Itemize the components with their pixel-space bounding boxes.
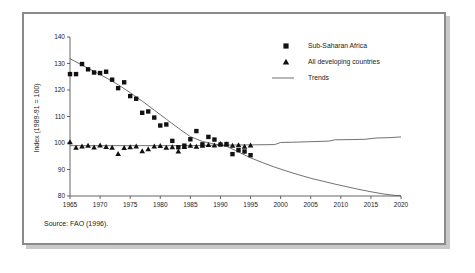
square-marker-icon bbox=[152, 115, 156, 119]
series-sub-saharan-africa bbox=[68, 62, 253, 158]
triangle-marker-icon bbox=[170, 144, 176, 149]
square-marker-icon bbox=[194, 129, 198, 133]
legend-label: Trends bbox=[308, 74, 330, 81]
chart-canvas: 1965197019751980198519901995200020052010… bbox=[0, 0, 475, 273]
triangle-marker-icon bbox=[145, 146, 151, 151]
square-marker-icon bbox=[146, 109, 150, 113]
square-marker-icon bbox=[92, 70, 96, 74]
y-axis-title: Index (1989-91 = 100) bbox=[33, 83, 41, 152]
square-marker-icon bbox=[80, 62, 84, 66]
square-marker-icon bbox=[74, 72, 78, 76]
triangle-marker-icon bbox=[67, 139, 73, 144]
y-tick-label: 110 bbox=[55, 113, 66, 120]
x-tick-label: 2005 bbox=[303, 201, 318, 208]
square-marker-icon bbox=[283, 43, 288, 48]
figure-root: 1965197019751980198519901995200020052010… bbox=[0, 0, 475, 273]
triangle-marker-icon bbox=[115, 151, 121, 156]
square-marker-icon bbox=[140, 111, 144, 115]
x-tick-label: 2010 bbox=[334, 201, 349, 208]
triangle-marker-icon bbox=[91, 144, 97, 149]
trend-lines bbox=[70, 59, 401, 196]
x-tick-label: 2015 bbox=[364, 201, 379, 208]
square-marker-icon bbox=[122, 80, 126, 84]
y-tick-label: 80 bbox=[58, 192, 66, 199]
x-tick-label: 1985 bbox=[183, 201, 198, 208]
triangle-marker-icon bbox=[97, 143, 103, 148]
square-marker-icon bbox=[206, 135, 210, 139]
legend-label: All developing countries bbox=[308, 58, 380, 66]
series-all-developing-countries bbox=[67, 139, 253, 156]
chart-legend: Sub-Saharan AfricaAll developing countri… bbox=[272, 42, 380, 81]
triangle-marker-icon bbox=[242, 144, 248, 149]
x-tick-label: 1965 bbox=[63, 201, 78, 208]
legend-item: Sub-Saharan Africa bbox=[283, 42, 367, 49]
y-axis-label: Index (1989-91 = 100) bbox=[33, 83, 41, 152]
y-axis-ticks: 8090100110120130140 bbox=[54, 33, 70, 199]
y-tick-label: 130 bbox=[54, 60, 65, 67]
x-axis-ticks: 1965197019751980198519901995200020052010… bbox=[63, 196, 409, 208]
source-note: Source: FAO (1996). bbox=[44, 220, 108, 228]
x-tick-label: 2020 bbox=[394, 201, 409, 208]
legend-label: Sub-Saharan Africa bbox=[308, 42, 367, 49]
triangle-marker-icon bbox=[139, 148, 145, 153]
square-marker-icon bbox=[86, 67, 90, 71]
x-tick-label: 1970 bbox=[93, 201, 108, 208]
square-marker-icon bbox=[116, 86, 120, 90]
triangle-marker-icon bbox=[283, 59, 289, 65]
y-tick-label: 120 bbox=[54, 86, 65, 93]
triangle-marker-icon bbox=[194, 144, 200, 149]
square-marker-icon bbox=[128, 94, 132, 98]
square-marker-icon bbox=[242, 149, 246, 153]
square-marker-icon bbox=[188, 137, 192, 141]
square-marker-icon bbox=[68, 72, 72, 76]
square-marker-icon bbox=[212, 137, 216, 141]
x-tick-label: 1975 bbox=[123, 201, 138, 208]
square-marker-icon bbox=[158, 123, 162, 127]
y-tick-label: 100 bbox=[54, 139, 65, 146]
x-tick-label: 1980 bbox=[153, 201, 168, 208]
triangle-marker-icon bbox=[103, 144, 109, 149]
square-marker-icon bbox=[170, 139, 174, 143]
square-marker-icon bbox=[104, 70, 108, 74]
legend-item: Trends bbox=[272, 74, 330, 81]
triangle-marker-icon bbox=[127, 144, 133, 149]
trend-line bbox=[70, 137, 401, 146]
square-marker-icon bbox=[230, 152, 234, 156]
y-tick-label: 90 bbox=[58, 166, 66, 173]
x-tick-label: 1990 bbox=[213, 201, 228, 208]
square-marker-icon bbox=[236, 148, 240, 152]
data-series bbox=[67, 62, 253, 158]
square-marker-icon bbox=[248, 153, 252, 157]
square-marker-icon bbox=[164, 122, 168, 126]
square-marker-icon bbox=[98, 71, 102, 75]
square-marker-icon bbox=[110, 77, 114, 81]
x-tick-label: 1995 bbox=[243, 201, 258, 208]
trend-line bbox=[70, 59, 401, 196]
x-tick-label: 2000 bbox=[273, 201, 288, 208]
legend-item: All developing countries bbox=[283, 58, 381, 66]
y-tick-label: 140 bbox=[54, 33, 65, 40]
square-marker-icon bbox=[134, 97, 138, 101]
